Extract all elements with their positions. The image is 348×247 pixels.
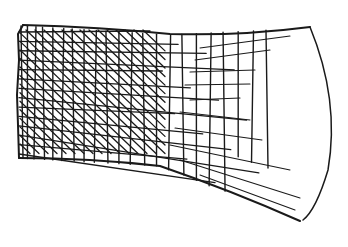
strand bbox=[209, 33, 211, 186]
strand bbox=[20, 41, 138, 153]
strand bbox=[185, 84, 250, 85]
strand bbox=[19, 79, 190, 88]
strand bbox=[19, 126, 231, 150]
strand bbox=[169, 35, 171, 170]
trailing-strands bbox=[170, 36, 300, 210]
strand bbox=[182, 34, 184, 175]
strand bbox=[252, 31, 254, 162]
strand bbox=[53, 30, 165, 136]
strand bbox=[125, 30, 165, 68]
strand bbox=[20, 84, 93, 153]
strand bbox=[19, 135, 259, 173]
net-sketch bbox=[0, 0, 348, 247]
strand bbox=[190, 70, 255, 72]
strand bbox=[200, 36, 290, 48]
net-outline bbox=[17, 25, 331, 221]
strand bbox=[19, 31, 150, 32]
strand bbox=[195, 50, 270, 60]
strand bbox=[175, 128, 262, 140]
strand bbox=[170, 145, 290, 170]
strand bbox=[200, 175, 295, 210]
strand bbox=[180, 112, 250, 120]
